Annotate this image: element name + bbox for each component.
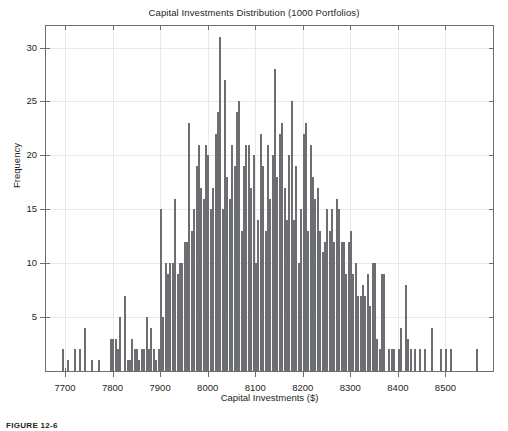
x-tick-mark [160, 368, 161, 372]
histogram-bar [400, 328, 402, 371]
plot-area [45, 25, 494, 372]
y-axis-title: Frequency [11, 126, 22, 206]
figure-container: Capital Investments Distribution (1000 P… [0, 0, 508, 431]
y-tick-mark [46, 101, 50, 102]
y-tick-value: 30 [0, 43, 37, 53]
histogram-bars [46, 26, 493, 371]
chart-title: Capital Investments Distribution (1000 P… [0, 7, 508, 18]
y-tick-mark [46, 317, 50, 318]
y-tick-mark [40, 48, 45, 49]
histogram-bar [440, 349, 442, 371]
histogram-bar [450, 349, 452, 371]
y-tick-mark [489, 155, 493, 156]
x-axis-title: Capital Investments ($) [45, 392, 494, 403]
y-tick-mark [40, 155, 45, 156]
y-tick-mark [489, 101, 493, 102]
histogram-bar [79, 349, 81, 371]
histogram-bar [431, 328, 433, 371]
y-tick-value: 25 [0, 96, 37, 106]
y-tick-mark [46, 155, 50, 156]
x-tick-mark [445, 368, 446, 372]
y-tick-value: 5 [0, 312, 37, 322]
y-tick-mark [40, 101, 45, 102]
histogram-bar [98, 360, 100, 371]
histogram-bar [414, 349, 416, 371]
histogram-bar [393, 349, 395, 371]
y-tick-mark [46, 48, 50, 49]
histogram-bar [424, 349, 426, 371]
x-tick-mark [208, 26, 209, 30]
histogram-bar [419, 349, 421, 371]
x-tick-mark [255, 26, 256, 30]
x-tick-mark [303, 368, 304, 372]
x-tick-mark [255, 368, 256, 372]
histogram-bar [410, 349, 412, 371]
x-tick-mark [65, 368, 66, 372]
histogram-bar [67, 360, 69, 371]
histogram-bar [91, 360, 93, 371]
y-tick-mark [46, 209, 50, 210]
x-tick-mark [398, 26, 399, 30]
y-tick-value: 10 [0, 258, 37, 268]
histogram-bar [119, 317, 121, 371]
y-tick-mark [489, 48, 493, 49]
y-tick-mark [489, 209, 493, 210]
x-tick-mark [350, 368, 351, 372]
x-tick-mark [65, 26, 66, 30]
y-tick-mark [489, 317, 493, 318]
x-tick-mark [113, 26, 114, 30]
x-tick-mark [398, 368, 399, 372]
histogram-bar [476, 349, 478, 371]
figure-caption-label: FIGURE 12-6 [6, 421, 58, 430]
x-tick-mark [160, 26, 161, 30]
x-tick-mark [445, 26, 446, 30]
y-tick-mark [489, 263, 493, 264]
x-tick-mark [303, 26, 304, 30]
y-tick-mark [40, 317, 45, 318]
histogram-bar [84, 328, 86, 371]
x-tick-mark [113, 368, 114, 372]
y-tick-mark [40, 263, 45, 264]
y-tick-value: 15 [0, 204, 37, 214]
histogram-bar [383, 274, 385, 371]
histogram-bar [74, 349, 76, 371]
y-tick-mark [46, 263, 50, 264]
x-tick-mark [350, 26, 351, 30]
y-tick-mark [40, 209, 45, 210]
x-tick-mark [208, 368, 209, 372]
